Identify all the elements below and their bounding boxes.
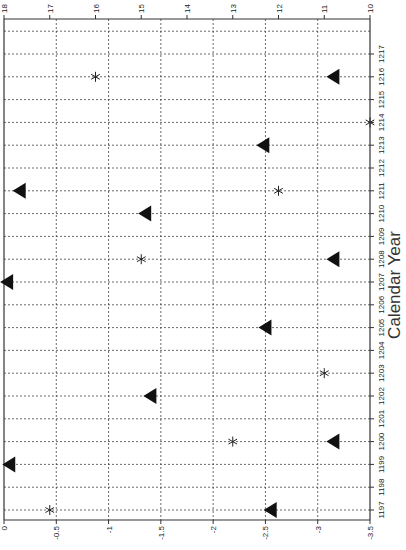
year-tick-label: 1216 bbox=[377, 67, 386, 85]
year-tick-label: 1197 bbox=[377, 501, 386, 519]
triangle-marker bbox=[256, 137, 269, 153]
bottom-tick-label: -2 bbox=[209, 525, 218, 533]
top-tick-label: 18 bbox=[0, 4, 9, 13]
year-tick-label: 1203 bbox=[377, 364, 386, 382]
year-tick-label: 1211 bbox=[377, 182, 386, 200]
triangle-marker bbox=[326, 434, 339, 450]
year-tick-label: 1210 bbox=[377, 204, 386, 222]
top-tick-label: 12 bbox=[275, 4, 284, 13]
year-tick-label: 1202 bbox=[377, 387, 386, 405]
year-tick-label: 1215 bbox=[377, 90, 386, 108]
bottom-tick-label: -1.5 bbox=[157, 525, 166, 539]
triangle-marker bbox=[143, 388, 156, 404]
triangle-marker bbox=[0, 274, 13, 290]
scatter-chart: 1817161514131211100-0.5-1-1.5-2-2.5-3-3.… bbox=[0, 0, 406, 550]
bottom-tick-label: 0 bbox=[0, 525, 9, 530]
top-tick-label: 17 bbox=[46, 4, 55, 13]
top-tick-label: 11 bbox=[320, 4, 329, 13]
triangle-marker bbox=[13, 183, 26, 199]
triangle-marker bbox=[326, 251, 339, 267]
top-tick-label: 10 bbox=[366, 4, 375, 13]
bottom-tick-label: -3.5 bbox=[366, 525, 375, 539]
top-tick-label: 14 bbox=[183, 4, 192, 13]
triangle-marker bbox=[326, 69, 339, 85]
year-tick-label: 1198 bbox=[377, 478, 386, 496]
bottom-tick-label: -3 bbox=[314, 525, 323, 533]
year-tick-label: 1212 bbox=[377, 159, 386, 177]
bottom-tick-label: -0.5 bbox=[52, 525, 61, 539]
bottom-tick-label: -1 bbox=[105, 525, 114, 533]
bottom-tick-label: -2.5 bbox=[261, 525, 270, 539]
triangle-marker bbox=[258, 320, 271, 336]
grid-lines bbox=[4, 19, 370, 520]
axes: 1817161514131211100-0.5-1-1.5-2-2.5-3-3.… bbox=[0, 4, 386, 540]
year-tick-label: 1214 bbox=[377, 113, 386, 131]
top-tick-label: 13 bbox=[229, 4, 238, 13]
year-tick-label: 1217 bbox=[377, 45, 386, 63]
year-tick-label: 1199 bbox=[377, 455, 386, 473]
year-tick-label: 1204 bbox=[377, 341, 386, 359]
year-tick-label: 1213 bbox=[377, 136, 386, 154]
top-tick-label: 15 bbox=[137, 4, 146, 13]
top-tick-label: 16 bbox=[92, 4, 101, 13]
year-tick-label: 1200 bbox=[377, 432, 386, 450]
triangle-marker bbox=[138, 206, 151, 222]
year-axis-title: Calendar Year bbox=[385, 231, 404, 339]
year-tick-label: 1201 bbox=[377, 409, 386, 427]
